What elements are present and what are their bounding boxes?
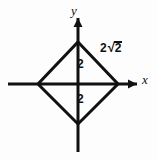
- radicand: 2: [115, 41, 122, 55]
- y-axis-label: y: [71, 4, 77, 17]
- x-axis-label: x: [142, 73, 148, 86]
- x-axis-arrowhead-icon: [128, 80, 137, 89]
- radical-overbar: [114, 41, 122, 43]
- side-length-label: 2√2: [100, 41, 122, 54]
- y-axis-arrowhead-icon: [74, 18, 83, 27]
- diagram-canvas: [0, 0, 157, 160]
- geometry-figure: y x 2 2 2√2: [0, 0, 157, 160]
- square-root-icon: √2: [107, 41, 122, 54]
- side-coefficient: 2: [100, 41, 107, 55]
- lower-segment-length-label: 2: [77, 93, 84, 105]
- upper-segment-length-label: 2: [77, 58, 84, 70]
